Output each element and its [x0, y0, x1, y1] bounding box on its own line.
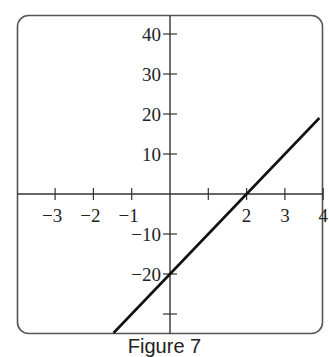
- y-tick-label: 40: [142, 24, 161, 45]
- x-tick-label: −3: [42, 205, 62, 226]
- y-tick-label: −20: [131, 264, 161, 285]
- x-tick-label: 3: [280, 205, 290, 226]
- x-tick-label: −2: [80, 205, 100, 226]
- x-tick-label: 2: [242, 205, 252, 226]
- y-tick-label: 10: [142, 144, 161, 165]
- axes: [18, 16, 323, 334]
- y-tick-label: 30: [142, 64, 161, 85]
- x-tick-label: −1: [119, 205, 139, 226]
- y-tick-label: 20: [142, 104, 161, 125]
- figure-caption: Figure 7: [0, 336, 329, 356]
- y-tick-label: −10: [131, 224, 161, 245]
- x-tick-label: 4: [318, 205, 328, 226]
- ticks: [55, 34, 323, 314]
